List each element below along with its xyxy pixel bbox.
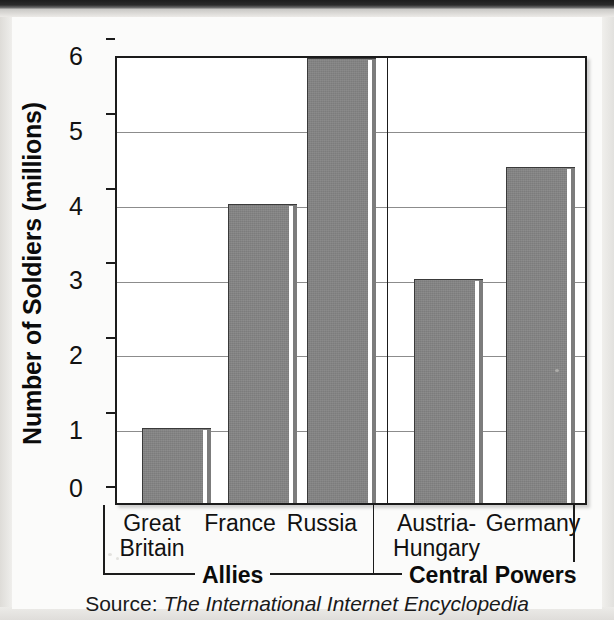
y-tick-mark-1 — [106, 412, 115, 414]
category-label-line1: Germany — [478, 511, 588, 536]
scan-edge-band-soft — [0, 9, 614, 17]
y-tick-label-1: 1 — [43, 418, 83, 443]
group-label-central-powers: Central Powers — [402, 562, 583, 589]
y-tick-mark-6 — [106, 38, 115, 40]
label-band-left-rail — [103, 505, 105, 575]
y-tick-label-3: 3 — [43, 268, 83, 293]
category-label-great-britain: Great Britain — [106, 511, 198, 561]
scan-edge-band — [0, 0, 614, 9]
group-label-allies: Allies — [195, 562, 270, 589]
source-caption: Source: The International Internet Encyc… — [12, 592, 602, 616]
category-label-france: France — [194, 511, 286, 536]
paper-speck — [555, 369, 559, 372]
category-label-line2: Hungary — [379, 536, 494, 561]
bar-great-britain — [142, 428, 211, 503]
category-label-germany: Germany — [478, 511, 588, 536]
y-tick-mark-5 — [106, 113, 115, 115]
y-tick-mark-4 — [106, 188, 115, 190]
category-label-line1: France — [194, 511, 286, 536]
category-label-line1: Austria- — [379, 511, 494, 536]
y-axis-title-wrap: Number of Soldiers (millions) — [12, 17, 13, 18]
category-label-line2: Britain — [106, 536, 198, 561]
category-label-russia: Russia — [276, 511, 368, 536]
bar-right-edge — [293, 205, 297, 503]
bar-right-edge — [571, 168, 575, 503]
y-tick-label-4: 4 — [43, 194, 83, 219]
paper-speck — [116, 557, 119, 560]
bar-russia — [307, 58, 376, 503]
bar-right-edge — [479, 280, 483, 503]
source-title: The International Internet Encyclopedia — [163, 592, 528, 615]
y-tick-label-5: 5 — [43, 119, 83, 144]
bar-france — [228, 204, 297, 503]
figure-page: 6 5 4 3 2 1 0 Number of Soldiers (millio… — [0, 0, 614, 620]
plot-area — [115, 56, 587, 505]
category-label-line1: Great — [106, 511, 198, 536]
y-tick-mark-0 — [106, 486, 115, 488]
group-divider — [387, 58, 388, 503]
y-tick-label-6: 6 — [43, 44, 83, 69]
bar-germany — [506, 167, 575, 503]
category-label-line1: Russia — [276, 511, 368, 536]
paper-speck — [108, 553, 112, 556]
category-label-austria-hungary: Austria- Hungary — [379, 511, 494, 561]
y-tick-label-2: 2 — [43, 343, 83, 368]
y-tick-label-0: 0 — [43, 476, 83, 501]
y-tick-mark-2 — [106, 337, 115, 339]
bar-right-edge — [207, 429, 211, 503]
bar-right-edge — [372, 59, 376, 503]
label-band-divider — [373, 505, 374, 575]
source-prefix: Source: — [85, 592, 163, 615]
y-tick-mark-3 — [106, 262, 115, 264]
y-axis-title: Number of Soldiers (millions) — [18, 64, 47, 484]
chart-figure: 6 5 4 3 2 1 0 Number of Soldiers (millio… — [12, 17, 602, 609]
page-margin-right — [602, 17, 614, 609]
bar-austria-hungary — [414, 279, 483, 503]
